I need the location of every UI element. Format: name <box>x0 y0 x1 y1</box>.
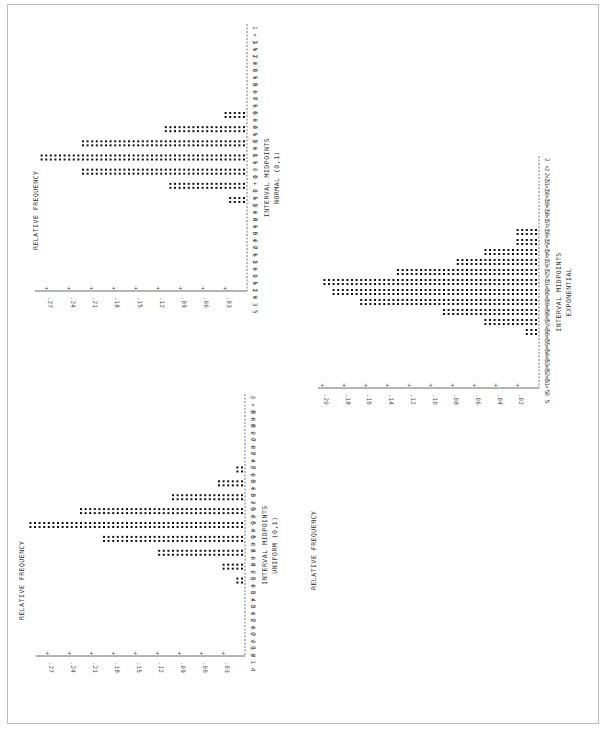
histogram-bar <box>229 197 245 203</box>
value-tick-label: .15 <box>137 297 144 308</box>
value-tick-mark: + <box>179 284 183 291</box>
exponential-histogram: +.02+.04+.06+.08+.10+.12+.14+.16+.18+.20… <box>310 156 573 590</box>
value-tick-label: .03 <box>224 662 231 673</box>
histogram-bar <box>457 259 537 265</box>
value-tick-mark: + <box>200 649 204 656</box>
histogram-bar <box>41 155 245 161</box>
value-tick-label: .15 <box>136 662 143 673</box>
histogram-bar <box>517 229 537 235</box>
value-tick-mark: + <box>134 284 138 291</box>
category-tick-label: 0 + 1 4 <box>250 646 257 672</box>
histogram-bar <box>80 508 243 514</box>
value-tick-label: .08 <box>453 394 460 405</box>
value-tick-label: .10 <box>432 394 439 405</box>
value-tick-mark: + <box>429 381 433 388</box>
value-tick-mark: + <box>364 381 368 388</box>
ylabel: RELATIVE FREQUENCY <box>32 171 40 250</box>
value-tick-mark: + <box>222 649 226 656</box>
value-tick-label: .21 <box>92 662 99 673</box>
histogram-bar <box>443 309 537 315</box>
histogram-bar <box>169 183 245 189</box>
value-tick-label: .18 <box>114 297 121 308</box>
value-tick-mark: + <box>223 284 227 291</box>
value-tick-mark: + <box>67 284 71 291</box>
value-tick-label: .18 <box>345 394 352 405</box>
value-tick-mark: + <box>112 284 116 291</box>
category-tick-label: - 1 + 3 5 <box>252 281 259 314</box>
value-tick-mark: + <box>407 381 411 388</box>
histogram-bar <box>323 279 537 285</box>
value-tick-label: .06 <box>203 297 210 308</box>
value-tick-label: .20 <box>323 394 330 405</box>
value-tick-mark: + <box>494 381 498 388</box>
value-tick-mark: + <box>342 381 346 388</box>
value-tick-label: .12 <box>158 662 165 673</box>
value-tick-label: .06 <box>202 662 209 673</box>
value-tick-label: .12 <box>410 394 417 405</box>
chart-title: UNIFORM (0,1) <box>271 516 279 573</box>
value-tick-label: .06 <box>475 394 482 405</box>
histogram-bar <box>223 564 243 570</box>
category-tick-label: 0 + 0 5 <box>544 378 551 404</box>
ylabel: RELATIVE FREQUENCY <box>310 511 318 590</box>
xlabel: INTERVAL MIDPOINTS <box>261 505 269 584</box>
value-tick-mark: + <box>201 284 205 291</box>
xlabel: INTERVAL MIDPOINTS <box>555 252 563 331</box>
histogram-bar <box>218 480 243 486</box>
histogram-bar <box>172 494 243 500</box>
xlabel: INTERVAL MIDPOINTS <box>263 138 271 217</box>
value-tick-mark: + <box>112 649 116 656</box>
value-tick-label: .16 <box>366 394 373 405</box>
value-tick-mark: + <box>178 649 182 656</box>
histogram-bar <box>333 289 537 295</box>
value-tick-label: .14 <box>388 394 395 405</box>
histogram-bar <box>103 536 243 542</box>
value-tick-mark: + <box>134 649 138 656</box>
value-tick-label: .09 <box>181 297 188 308</box>
value-tick-label: .21 <box>92 297 99 308</box>
value-tick-label: .27 <box>47 297 54 308</box>
value-tick-mark: + <box>516 381 520 388</box>
value-tick-mark: + <box>46 649 50 656</box>
histogram-bar <box>29 522 243 528</box>
histogram-bar <box>526 329 537 335</box>
value-tick-label: .24 <box>70 662 77 673</box>
histogram-bar <box>82 169 245 175</box>
histogram-bar <box>484 319 537 325</box>
histogram-bar <box>484 249 537 255</box>
uniform-histogram: +.03+.06+.09+.12+.15+.18+.21+.24+.27RELA… <box>18 394 279 673</box>
value-tick-label: .04 <box>497 394 504 405</box>
value-tick-mark: + <box>451 381 455 388</box>
chart-title: EXPONENTIAL <box>565 268 573 317</box>
value-tick-mark: + <box>472 381 476 388</box>
value-tick-label: .03 <box>226 297 233 308</box>
histogram-bar <box>158 550 243 556</box>
histogram-canvas: +.03+.06+.09+.12+.15+.18+.21+.24+.27RELA… <box>0 0 601 729</box>
value-tick-label: .18 <box>114 662 121 673</box>
histogram-bar <box>236 578 243 584</box>
ylabel: RELATIVE FREQUENCY <box>18 541 26 620</box>
normal-histogram: +.03+.06+.09+.12+.15+.18+.21+.24+.27RELA… <box>32 24 281 314</box>
value-tick-mark: + <box>90 649 94 656</box>
value-tick-mark: + <box>156 649 160 656</box>
histogram-bar <box>360 299 537 305</box>
value-tick-label: .24 <box>70 297 77 308</box>
histogram-bar <box>165 126 245 132</box>
value-tick-mark: + <box>45 284 49 291</box>
value-tick-mark: + <box>386 381 390 388</box>
histogram-bar <box>397 269 537 275</box>
value-tick-label: .09 <box>180 662 187 673</box>
value-tick-label: .02 <box>518 394 525 405</box>
histogram-bar <box>225 112 245 118</box>
value-tick-mark: + <box>321 381 325 388</box>
histogram-bar <box>517 239 537 245</box>
value-tick-mark: + <box>156 284 160 291</box>
chart-title: NORMAL (0,1) <box>273 151 281 204</box>
value-tick-mark: + <box>89 284 93 291</box>
histogram-bar <box>82 140 245 146</box>
histogram-bar <box>236 466 243 472</box>
value-tick-label: .12 <box>159 297 166 308</box>
value-tick-mark: + <box>68 649 72 656</box>
value-tick-label: .27 <box>48 662 55 673</box>
